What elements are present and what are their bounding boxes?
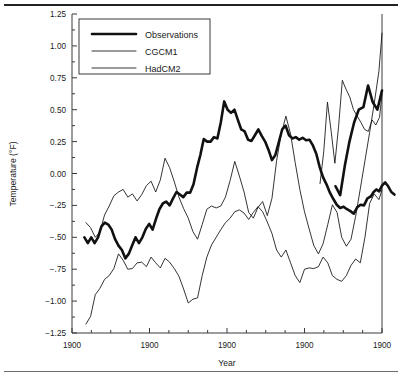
y-tick-label: −1.00	[45, 297, 66, 306]
y-tick-label: 0.50	[50, 106, 66, 115]
y-tick-label: 0.00	[50, 170, 66, 179]
x-tick-label: 1900	[373, 341, 392, 350]
x-axis-title: Year	[218, 358, 236, 368]
figure-container: 1.251.000.750.500.250.00−.25−.50−.75−1.0…	[0, 0, 402, 382]
x-tick-label: 1900	[295, 341, 314, 350]
y-tick-label: 0.75	[50, 74, 66, 83]
x-tick-label: 1900	[63, 341, 82, 350]
chart-legend: ObservationsCGCM1HadCM2	[79, 19, 210, 74]
legend-label-cgcm1: CGCM1	[145, 47, 178, 57]
legend-label-observations: Observations	[145, 30, 199, 40]
x-tick-label: 1900	[218, 341, 237, 350]
data-series-group	[84, 33, 394, 324]
y-axis-title: Temperature (°F)	[8, 141, 18, 206]
y-tick-label: 1.25	[50, 10, 66, 19]
x-tick-label: 1900	[140, 341, 159, 350]
y-tick-label: 1.00	[50, 42, 66, 51]
temperature-line-chart: 1.251.000.750.500.250.00−.25−.50−.75−1.0…	[0, 0, 402, 382]
y-tick-label: −1.25	[45, 329, 66, 338]
y-tick-label: 0.25	[50, 138, 66, 147]
y-tick-label: −.75	[50, 265, 67, 274]
series-line-hadcm2	[86, 190, 382, 324]
series-line-observations	[84, 101, 370, 258]
series-line-observations-late	[336, 85, 383, 195]
y-tick-label: −.50	[50, 233, 67, 242]
x-axis-ticks: 19001900190019001900	[63, 328, 392, 350]
legend-label-hadcm2: HadCM2	[145, 64, 181, 74]
y-tick-label: −.25	[50, 201, 67, 210]
